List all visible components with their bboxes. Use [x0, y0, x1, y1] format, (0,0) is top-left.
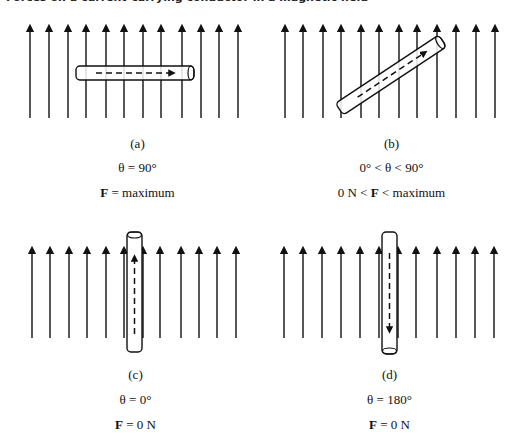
- panel-d-force: F = 0 N: [260, 417, 519, 433]
- panel-a-conductor: [76, 66, 194, 80]
- panel-c-angle: θ = 0°: [6, 392, 265, 408]
- panel-d-angle: θ = 180°: [260, 392, 519, 408]
- panel-d-label: (d): [260, 367, 519, 383]
- panel-b-label: (b): [262, 136, 519, 152]
- panel-d-conductor: [382, 232, 397, 354]
- panel-c-conductor: [127, 232, 142, 352]
- panel-b-angle: 0° < θ < 90°: [262, 160, 519, 176]
- panel-b-force: 0 N < F < maximum: [262, 185, 519, 201]
- panel-a-angle: θ = 90°: [8, 160, 267, 176]
- panel-c-force: F = 0 N: [6, 417, 265, 433]
- panel-a-label: (a): [8, 136, 267, 152]
- panel-c-label: (c): [6, 367, 265, 383]
- panel-b-conductor: [335, 35, 446, 115]
- panel-a-force: F = maximum: [8, 185, 267, 201]
